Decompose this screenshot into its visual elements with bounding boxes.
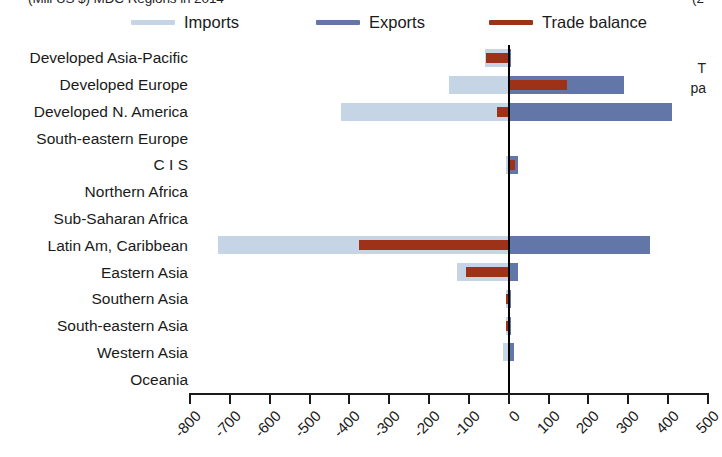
category-label: C I S xyxy=(0,157,188,173)
x-axis-tick-label: -600 xyxy=(249,407,284,442)
x-axis-tick xyxy=(548,393,550,404)
bar-row xyxy=(190,179,708,206)
bar-exports xyxy=(509,263,518,281)
bar-row xyxy=(190,259,708,286)
x-axis-tick xyxy=(428,393,430,404)
x-axis-tick-label: -100 xyxy=(448,407,483,442)
x-axis-tick-label: -400 xyxy=(329,407,364,442)
bars-area xyxy=(190,45,708,393)
legend-label-exports: Exports xyxy=(369,14,425,31)
category-label: South-eastern Europe xyxy=(0,131,188,147)
imports-color-swatch xyxy=(131,20,175,25)
bar-imports xyxy=(449,76,509,94)
x-axis-tick xyxy=(388,393,390,404)
bar-row xyxy=(190,45,708,72)
category-axis: Developed Asia-PacificDeveloped EuropeDe… xyxy=(0,45,188,393)
bar-trade-balance xyxy=(509,80,567,90)
legend-label-imports: Imports xyxy=(184,14,239,31)
zero-axis-line xyxy=(508,45,510,393)
x-axis-tick-label: 500 xyxy=(687,407,722,442)
chart-title-clipped: (Mill US $) MDC Regions in 2014 xyxy=(28,0,224,6)
category-label: South-eastern Asia xyxy=(0,318,188,334)
x-axis: -800-700-600-500-400-300-200-10001002003… xyxy=(190,393,708,457)
plot-area: Developed Asia-PacificDeveloped EuropeDe… xyxy=(0,45,708,393)
legend-item-exports[interactable]: Exports xyxy=(316,14,425,31)
bar-trade-balance xyxy=(466,267,509,277)
bar-row xyxy=(190,206,708,233)
x-axis-tick-label: 300 xyxy=(608,407,643,442)
x-axis-tick xyxy=(587,393,589,404)
x-axis-tick xyxy=(707,393,709,404)
bar-row xyxy=(190,232,708,259)
x-axis-tick xyxy=(627,393,629,404)
category-label: Northern Africa xyxy=(0,184,188,200)
x-axis-tick xyxy=(229,393,231,404)
category-label: Developed Europe xyxy=(0,77,188,93)
exports-color-swatch xyxy=(316,20,360,25)
legend-item-trade-balance[interactable]: Trade balance xyxy=(489,14,647,31)
x-axis-tick xyxy=(269,393,271,404)
bar-row xyxy=(190,125,708,152)
category-label: Sub-Saharan Africa xyxy=(0,211,188,227)
bar-exports xyxy=(509,236,650,254)
bar-row xyxy=(190,72,708,99)
category-label: Oceania xyxy=(0,372,188,388)
x-axis-tick xyxy=(508,393,510,404)
category-label: Latin Am, Caribbean xyxy=(0,238,188,254)
bar-row xyxy=(190,152,708,179)
trade-balance-color-swatch xyxy=(489,20,533,25)
x-axis-tick xyxy=(468,393,470,404)
bar-imports xyxy=(341,103,508,121)
category-label: Southern Asia xyxy=(0,291,188,307)
x-axis-tick-label: 400 xyxy=(648,407,683,442)
chart-legend: Imports Exports Trade balance xyxy=(0,12,708,38)
category-label: Western Asia xyxy=(0,345,188,361)
x-axis-tick-label: 0 xyxy=(488,407,523,442)
x-axis-tick-label: -200 xyxy=(408,407,443,442)
x-axis-tick-label: 200 xyxy=(568,407,603,442)
category-label: Eastern Asia xyxy=(0,265,188,281)
x-axis-tick-label: -500 xyxy=(289,407,324,442)
legend-label-trade-balance: Trade balance xyxy=(542,14,647,31)
bar-exports xyxy=(509,103,672,121)
x-axis-tick xyxy=(189,393,191,404)
bar-trade-balance xyxy=(359,240,508,250)
category-label: Developed N. America xyxy=(0,104,188,120)
bar-row xyxy=(190,313,708,340)
x-axis-tick-label: 100 xyxy=(528,407,563,442)
bar-row xyxy=(190,339,708,366)
x-axis-line xyxy=(190,393,708,395)
bar-trade-balance xyxy=(486,53,508,63)
x-axis-tick-label: -300 xyxy=(369,407,404,442)
x-axis-tick xyxy=(309,393,311,404)
x-axis-tick xyxy=(348,393,350,404)
x-axis-tick xyxy=(667,393,669,404)
x-axis-tick-label: -800 xyxy=(169,407,204,442)
bar-row xyxy=(190,366,708,393)
bar-row xyxy=(190,99,708,126)
chart-title-right-clipped: (2 xyxy=(692,0,704,6)
legend-item-imports[interactable]: Imports xyxy=(131,14,239,31)
category-label: Developed Asia-Pacific xyxy=(0,50,188,66)
bar-row xyxy=(190,286,708,313)
x-axis-tick-label: -700 xyxy=(209,407,244,442)
